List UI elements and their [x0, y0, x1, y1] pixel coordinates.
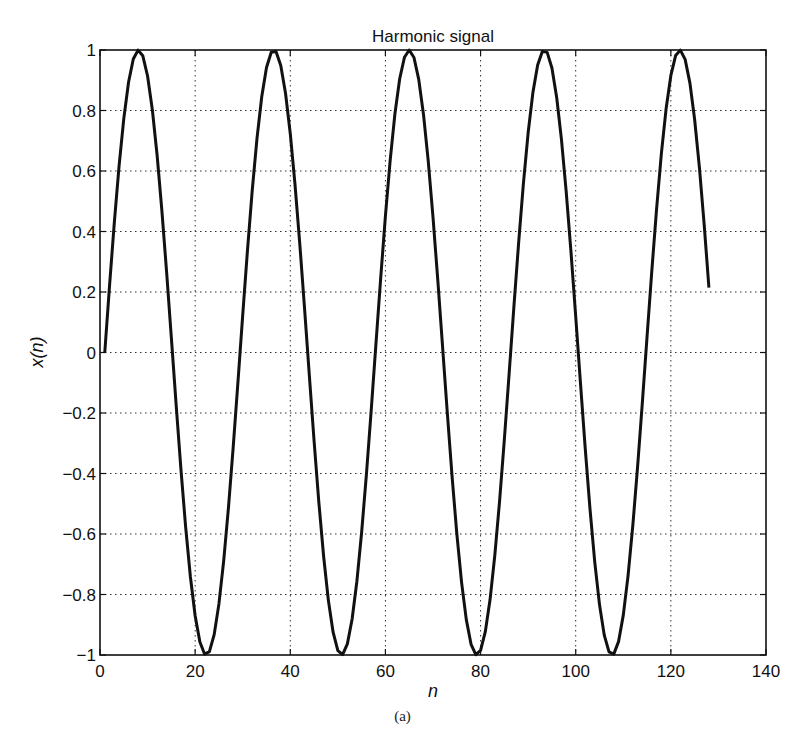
x-tick-label: 20 [186, 662, 205, 681]
y-tick-label: 0 [87, 344, 96, 363]
y-tick-label: 0.2 [72, 283, 96, 302]
x-tick-label: 120 [657, 662, 685, 681]
y-tick-label: −1 [77, 646, 96, 665]
y-tick-label: 0.8 [72, 102, 96, 121]
y-tick-label: −0.8 [62, 586, 96, 605]
harmonic-signal-chart: 020406080100120140−1−0.8−0.6−0.4−0.200.2… [0, 0, 805, 705]
y-tick-label: 0.6 [72, 162, 96, 181]
x-tick-label: 100 [562, 662, 590, 681]
y-tick-label: 0.4 [72, 223, 96, 242]
y-axis-label: x(n) [27, 337, 47, 369]
x-tick-label: 60 [376, 662, 395, 681]
x-tick-label: 40 [281, 662, 300, 681]
x-tick-label: 80 [471, 662, 490, 681]
y-tick-label: −0.2 [62, 404, 96, 423]
y-tick-label: −0.4 [62, 465, 96, 484]
x-axis-label: n [428, 681, 438, 701]
y-tick-label: −0.6 [62, 525, 96, 544]
x-tick-label: 140 [752, 662, 780, 681]
grid-lines [100, 50, 766, 655]
tick-labels: 020406080100120140−1−0.8−0.6−0.4−0.200.2… [62, 41, 780, 681]
y-tick-label: 1 [87, 41, 96, 60]
chart-title: Harmonic signal [372, 27, 494, 46]
figure-caption: (a) [0, 708, 805, 725]
x-tick-label: 0 [95, 662, 104, 681]
